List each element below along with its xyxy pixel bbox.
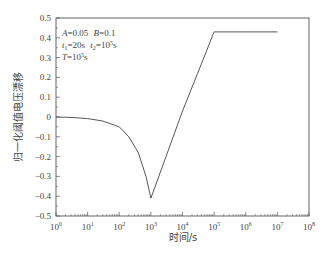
x-tick-label: 102 [113,221,125,232]
x-tick-label: 107 [271,221,283,232]
y-tick-label: 0.3 [40,53,52,63]
x-tick-label: 108 [303,221,315,232]
annotation-line-2: t1=20s t2=105s [62,40,117,51]
y-tick-label: 0 [47,112,52,122]
x-tick-label: 101 [82,221,94,232]
x-axis-ticks: 100101102103104105106107108 [50,212,315,232]
x-tick-label: 104 [177,221,189,232]
y-tick-label: −0.3 [35,171,52,181]
y-tick-label: −0.2 [35,152,51,162]
x-tick-label: 105 [208,221,220,232]
x-tick-label: 100 [50,221,62,232]
y-tick-label: 0.5 [40,13,52,23]
y-axis-title: 归一化阈值电压漂移 [12,72,24,162]
x-axis-title: 时间/s [169,231,198,243]
chart-svg: 0.50.40.30.20.10−0.1−0.2−0.3−0.4−0.5 100… [0,0,329,261]
annotation-line-3: T=105s [62,52,88,62]
y-tick-label: 0.2 [40,72,51,82]
annotation-line-1: A=0.05 B=0.1 [61,28,115,38]
y-tick-label: 0.1 [40,92,51,102]
y-tick-label: −0.1 [35,132,51,142]
y-tick-label: 0.4 [40,33,52,43]
x-tick-label: 103 [145,221,157,232]
y-tick-label: −0.4 [35,191,52,201]
y-tick-label: −0.5 [35,211,52,221]
data-line [56,32,277,198]
x-tick-label: 106 [240,221,252,232]
annotation-block: A=0.05 B=0.1 t1=20s t2=105s T=105s [61,28,117,62]
